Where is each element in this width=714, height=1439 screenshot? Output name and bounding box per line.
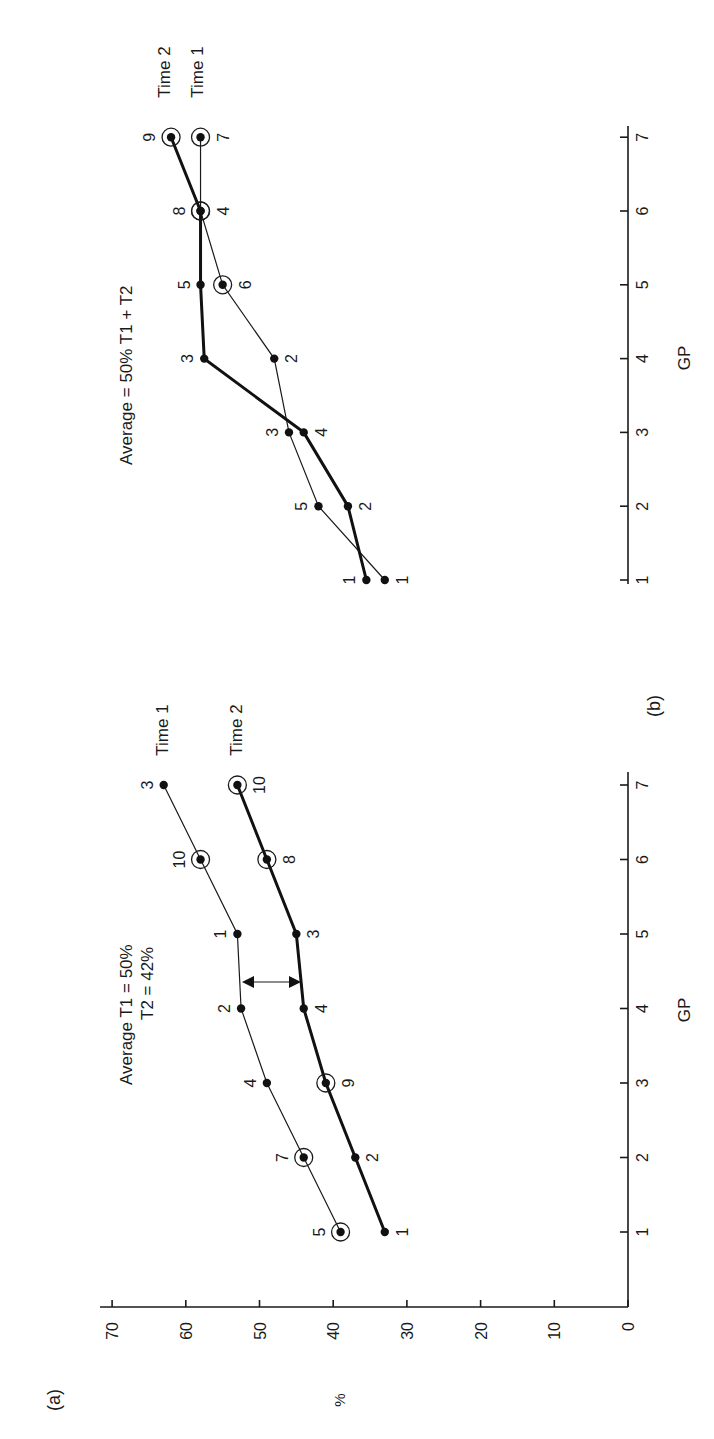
x-tick-label: 5 (634, 929, 651, 938)
chart-canvas: 010203040506070 1234567 5742110312943810… (0, 0, 714, 1439)
point-label: 10 (171, 851, 188, 869)
panel-a-x-axis-label: GP (675, 998, 694, 1023)
data-point (218, 281, 226, 289)
point-label: 4 (242, 1078, 259, 1087)
point-label: 5 (176, 280, 193, 289)
y-axis-label: % (331, 1393, 348, 1406)
data-point (336, 1228, 344, 1236)
panel-a-x-ticks: 1234567 (620, 780, 651, 1236)
x-tick-label: 4 (634, 1004, 651, 1013)
point-label: 3 (139, 780, 156, 789)
point-label: 7 (215, 133, 232, 142)
panel-a-time2-label: Time 2 (227, 704, 246, 755)
data-point (351, 1153, 359, 1161)
data-point (196, 207, 204, 215)
point-label: 2 (357, 502, 374, 511)
data-point (200, 354, 208, 362)
x-tick-label: 6 (634, 855, 651, 864)
point-label: 4 (313, 1004, 330, 1013)
panel-b-x-ticks: 1234567 (620, 133, 651, 585)
data-point (362, 576, 370, 584)
data-point (300, 1004, 308, 1012)
panel-a-label: (a) (44, 1389, 64, 1411)
data-point (196, 281, 204, 289)
x-tick-label: 7 (634, 133, 651, 142)
panel-a-y-ticks: 010203040506070 (104, 1300, 637, 1340)
point-label: 2 (216, 1004, 233, 1013)
x-tick-label: 5 (634, 280, 651, 289)
data-point (292, 930, 300, 938)
y-tick-label: 0 (620, 1322, 637, 1331)
panel-b: 1234567 15326471243589 (b) GP Average = … (117, 46, 694, 717)
data-point (300, 428, 308, 436)
series-line-time-2 (237, 785, 384, 1232)
point-label: 3 (179, 354, 196, 363)
y-tick-label: 20 (473, 1322, 490, 1340)
point-label: 5 (293, 502, 310, 511)
panel-b-series: 15326471243589 (141, 128, 411, 584)
x-tick-label: 2 (634, 1153, 651, 1162)
data-point (167, 133, 175, 141)
data-point (322, 1079, 330, 1087)
panel-a: 010203040506070 1234567 5742110312943810… (44, 704, 694, 1411)
panel-a-average-note-line1: Average T1 = 50% (117, 944, 136, 1085)
x-tick-label: 2 (634, 502, 651, 511)
data-point (300, 1153, 308, 1161)
panel-b-time2-label: Time 2 (155, 46, 174, 97)
point-label: 2 (283, 354, 300, 363)
x-tick-label: 3 (634, 1078, 651, 1087)
y-tick-label: 50 (252, 1322, 269, 1340)
panel-b-time1-label: Time 1 (188, 46, 207, 97)
point-label: 4 (313, 428, 330, 437)
point-label: 9 (340, 1078, 357, 1087)
y-tick-label: 30 (399, 1322, 416, 1340)
x-tick-label: 6 (634, 206, 651, 215)
point-label: 1 (341, 575, 358, 584)
y-tick-label: 70 (104, 1322, 121, 1340)
data-point (233, 930, 241, 938)
point-label: 4 (215, 206, 232, 215)
x-tick-label: 3 (634, 428, 651, 437)
data-point (314, 502, 322, 510)
point-label: 6 (237, 280, 254, 289)
data-point (196, 133, 204, 141)
point-label: 8 (171, 206, 188, 215)
y-tick-label: 10 (546, 1322, 563, 1340)
point-label: 9 (141, 133, 158, 142)
data-point (381, 1228, 389, 1236)
panel-a-series: 5742110312943810 (139, 776, 411, 1241)
data-point (263, 1079, 271, 1087)
point-label: 5 (311, 1227, 328, 1236)
point-label: 1 (394, 1227, 411, 1236)
panel-a-average-note-line2: T2 = 42% (138, 947, 157, 1020)
panel-b-x-axis-label: GP (675, 346, 694, 371)
y-tick-label: 40 (325, 1322, 342, 1340)
data-point (344, 502, 352, 510)
data-point (263, 855, 271, 863)
data-point (233, 781, 241, 789)
x-tick-label: 4 (634, 354, 651, 363)
data-point (196, 855, 204, 863)
data-point (159, 781, 167, 789)
point-label: 2 (364, 1153, 381, 1162)
data-point (381, 576, 389, 584)
difference-arrow (242, 976, 301, 988)
point-label: 3 (305, 929, 322, 938)
panel-a-time1-label: Time 1 (153, 704, 172, 755)
y-tick-label: 60 (178, 1322, 195, 1340)
data-point (237, 1004, 245, 1012)
x-tick-label: 7 (634, 780, 651, 789)
point-label: 1 (394, 575, 411, 584)
x-tick-label: 1 (634, 1227, 651, 1236)
data-point (285, 428, 293, 436)
point-label: 7 (274, 1153, 291, 1162)
point-label: 1 (212, 929, 229, 938)
panel-b-label: (b) (644, 695, 664, 717)
panel-b-average-note: Average = 50% T1 + T2 (117, 285, 136, 465)
x-tick-label: 1 (634, 575, 651, 584)
data-point (270, 354, 278, 362)
point-label: 3 (264, 428, 281, 437)
point-label: 10 (251, 776, 268, 794)
point-label: 8 (281, 855, 298, 864)
